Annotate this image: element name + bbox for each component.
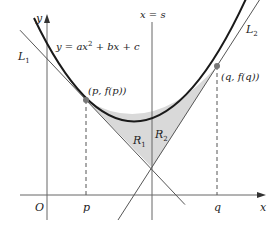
point-q-marker (214, 63, 220, 69)
tangent-l2-label: L2 (245, 23, 258, 38)
equation-label: y = ax2 + bx + c (55, 40, 140, 52)
x-axis-label: x (260, 201, 267, 214)
point-q-label: (q, f(q)) (221, 71, 260, 82)
vertical-line-label: x = s (140, 9, 166, 20)
point-p-label: (p, f(p)) (88, 85, 127, 96)
tick-p-label: p (83, 201, 90, 214)
x-axis-arrow-icon (257, 192, 266, 198)
parabola-tangent-diagram: y x O y = ax2 + bx + c x = s L1 L2 (p, f… (0, 0, 279, 238)
tangent-l1-label: L1 (17, 50, 30, 65)
point-p-marker (83, 97, 89, 103)
tick-q-label: q (214, 201, 221, 214)
origin-label: O (35, 201, 44, 214)
y-axis-label: y (35, 12, 43, 25)
y-axis-arrow-icon (44, 14, 50, 23)
tangent-line-l2 (118, 0, 260, 220)
